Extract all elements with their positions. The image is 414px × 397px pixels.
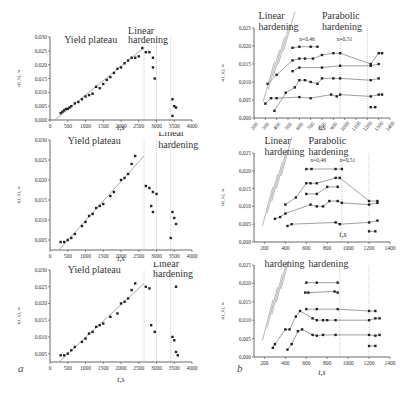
y-tick-label: 0,020 [35, 62, 48, 68]
x-tick-label: 800 [323, 360, 332, 366]
panel-b3: 0,0000,0050,0100,0150,0200,0252004006008… [207, 260, 414, 397]
data-point [77, 101, 79, 103]
y-tick-label: 0,000 [35, 117, 48, 123]
panel-b2: 0,0000,0050,0100,0150,0200,0252004006008… [207, 135, 414, 260]
y-tick-label: 0,010 [239, 317, 252, 323]
chart-b3: 0,0000,0050,0100,0150,0200,0252004006008… [207, 260, 414, 397]
data-point [59, 241, 61, 243]
x-tick-label: 2500 [133, 123, 144, 129]
data-point [368, 310, 370, 312]
data-point [109, 195, 111, 197]
hardening-line [267, 287, 277, 327]
x-tick-label: 1000 [343, 245, 354, 251]
data-point [305, 168, 307, 170]
y-axis-label: s(t_k), м [220, 188, 226, 206]
data-point [95, 207, 97, 209]
y-tick-label: 0,030 [35, 267, 48, 273]
y-tick-label: 0,010 [35, 89, 48, 95]
data-point [322, 319, 324, 321]
data-point [91, 331, 93, 333]
data-point [279, 216, 281, 218]
data-point [311, 334, 313, 336]
data-point [274, 343, 276, 345]
x-tick-label: 1200 [364, 360, 375, 366]
x-tick-label: 1300 [373, 120, 385, 132]
annotation: n=0,51 [340, 157, 356, 163]
data-point [305, 308, 307, 310]
y-tick-label: 0,015 [239, 186, 252, 192]
data-point [155, 193, 157, 195]
data-point [145, 185, 147, 187]
data-point [116, 68, 118, 70]
data-point [173, 217, 175, 219]
data-point [298, 66, 300, 68]
y-tick-label: 0,005 [35, 351, 48, 357]
data-point [316, 281, 318, 283]
annotation: Yield plateau [68, 135, 121, 146]
x-tick-label: 300 [260, 121, 270, 131]
hardening-line [272, 274, 282, 314]
data-point [102, 83, 104, 85]
data-point [321, 54, 323, 56]
data-point [316, 308, 318, 310]
data-point [376, 219, 378, 221]
annotation: Yield plateau [68, 264, 121, 275]
data-point [377, 77, 379, 79]
data-point [99, 324, 101, 326]
data-point [304, 291, 306, 293]
data-point [291, 70, 293, 72]
data-point [127, 59, 129, 61]
data-point [152, 191, 154, 193]
data-point [171, 336, 173, 338]
hardening-line [268, 50, 279, 90]
data-point [285, 92, 287, 94]
annotation: hardening [308, 146, 348, 157]
data-point [374, 317, 376, 319]
y-tick-label: 0,015 [239, 299, 252, 305]
data-point [368, 221, 370, 223]
x-tick-label: 2500 [133, 365, 144, 371]
y-tick-label: 0,005 [239, 336, 252, 342]
data-point [84, 95, 86, 97]
x-tick-label: 2000 [116, 365, 127, 371]
data-point [130, 57, 132, 59]
annotation: Linear [158, 132, 185, 138]
data-point [299, 310, 301, 312]
x-tick-label: 1500 [98, 123, 109, 129]
data-point [370, 79, 372, 81]
y-axis-label: s(t_k), м [16, 69, 22, 87]
x-tick-label: 200 [260, 360, 269, 366]
data-point [316, 193, 318, 195]
x-tick-label: 600 [294, 121, 304, 131]
x-tick-label: 1400 [385, 360, 396, 366]
data-point [316, 205, 318, 207]
data-point [316, 319, 318, 321]
y-tick-label: 0,000 [239, 239, 252, 245]
data-point [316, 46, 318, 48]
x-tick-label: 1400 [384, 120, 396, 132]
data-point [170, 237, 172, 239]
data-point [332, 52, 334, 54]
annotation: hardening [153, 268, 193, 279]
annotation: hardening [264, 146, 304, 157]
annotation: n=0,51 [337, 36, 353, 42]
data-point [63, 354, 65, 356]
y-tick-label: 0,015 [35, 317, 48, 323]
data-point [368, 345, 370, 347]
series-line [268, 53, 382, 84]
y-tick-label: 0,025 [35, 48, 48, 54]
annotation: hardening [322, 21, 362, 32]
y-tick-label: 0,015 [35, 197, 48, 203]
x-tick-label: 1000 [80, 123, 91, 129]
series-line [274, 78, 378, 110]
data-point [102, 322, 104, 324]
data-point [334, 334, 336, 336]
x-axis-label: t,s [318, 123, 325, 132]
data-point [370, 106, 372, 108]
x-axis-label: t,s [339, 230, 346, 239]
data-point [74, 346, 76, 348]
data-point [148, 287, 150, 289]
data-point [298, 46, 300, 48]
data-point [334, 168, 336, 170]
y-tick-label: 0,030 [35, 34, 48, 40]
